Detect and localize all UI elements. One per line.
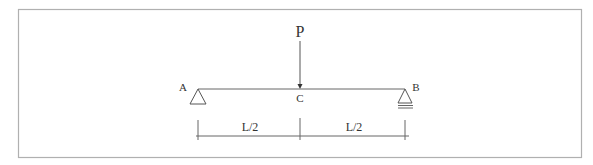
- dimension-label-left: L/2: [242, 120, 259, 134]
- beam-diagram: P A B C L/2 L/2: [0, 0, 593, 165]
- roller-support-icon: [398, 89, 412, 103]
- load-arrow-head-icon: [298, 84, 303, 89]
- support-b-label: B: [412, 81, 419, 93]
- support-a-label: A: [179, 81, 187, 93]
- dimension-label-right: L/2: [346, 120, 363, 134]
- midpoint-c-label: C: [296, 92, 303, 104]
- load-label: P: [296, 23, 305, 40]
- pin-support-icon: [190, 89, 206, 104]
